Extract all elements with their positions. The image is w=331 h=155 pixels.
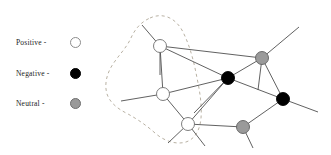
graph-node-negative[interactable] (222, 72, 235, 85)
graph-stub-edge (262, 27, 299, 58)
graph-node-negative[interactable] (277, 93, 290, 106)
graph-edge (243, 99, 283, 127)
graph-node-positive[interactable] (154, 40, 167, 53)
graph-node-positive[interactable] (157, 88, 170, 101)
graph-stub-edge-layer (121, 25, 318, 148)
graph-node-neutral[interactable] (256, 52, 269, 65)
graph-edge (188, 78, 228, 124)
figure-canvas: Positive - Negative - Neutral - (0, 0, 331, 155)
network-graph (0, 0, 331, 155)
graph-node-neutral[interactable] (237, 121, 250, 134)
graph-node-positive[interactable] (182, 118, 195, 131)
graph-edge (160, 46, 262, 58)
graph-edge (160, 46, 228, 78)
graph-edge (163, 78, 228, 94)
graph-edge (228, 78, 283, 99)
graph-edge (188, 124, 243, 127)
network-graph-svg (0, 0, 331, 155)
